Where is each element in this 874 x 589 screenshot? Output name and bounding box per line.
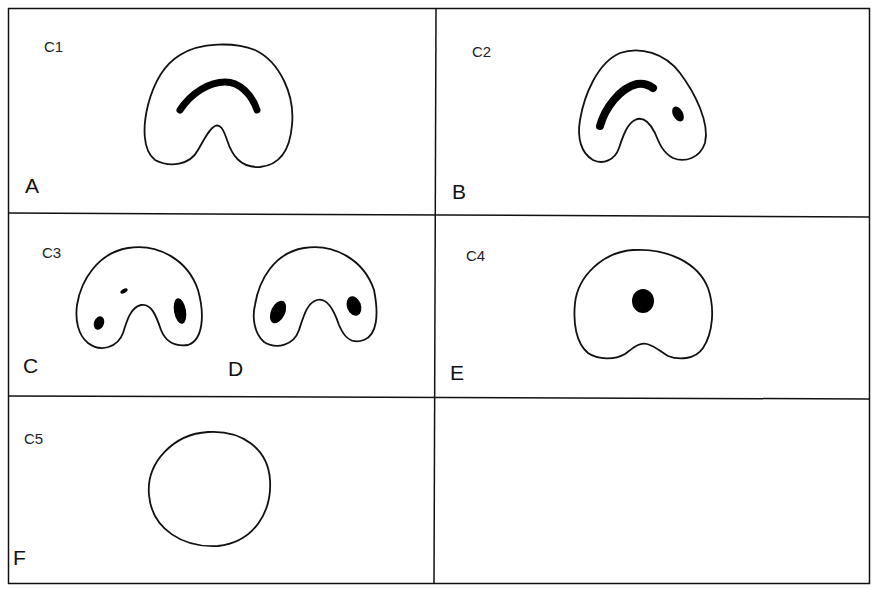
spinal-cross-section-c5 bbox=[146, 430, 274, 550]
panel-code-label: C1 bbox=[44, 38, 63, 55]
spinal-cross-section-c4 bbox=[573, 248, 718, 363]
spinal-cross-section-c3 bbox=[73, 245, 208, 355]
panel-letter-label: D bbox=[228, 357, 243, 381]
empty-panel bbox=[435, 399, 870, 584]
panel-letter-label: F bbox=[13, 546, 26, 570]
spinal-cross-section-c3-variant bbox=[249, 245, 379, 355]
panel-letter-label: C bbox=[23, 354, 38, 378]
panel-code-label: C4 bbox=[466, 247, 485, 264]
panel-code-label: C5 bbox=[24, 430, 43, 447]
panel-letter-label: E bbox=[450, 361, 464, 385]
panel-letter-label: B bbox=[452, 180, 466, 204]
panel-letter-label: A bbox=[25, 174, 39, 198]
panel-code-label: C2 bbox=[472, 43, 491, 60]
spinal-cross-section-c1 bbox=[140, 40, 300, 175]
panel-code-label: C3 bbox=[42, 244, 61, 261]
spinal-cross-section-c2 bbox=[575, 48, 710, 168]
figure: C1 A C2 B C3 C D C4 E bbox=[0, 0, 874, 589]
